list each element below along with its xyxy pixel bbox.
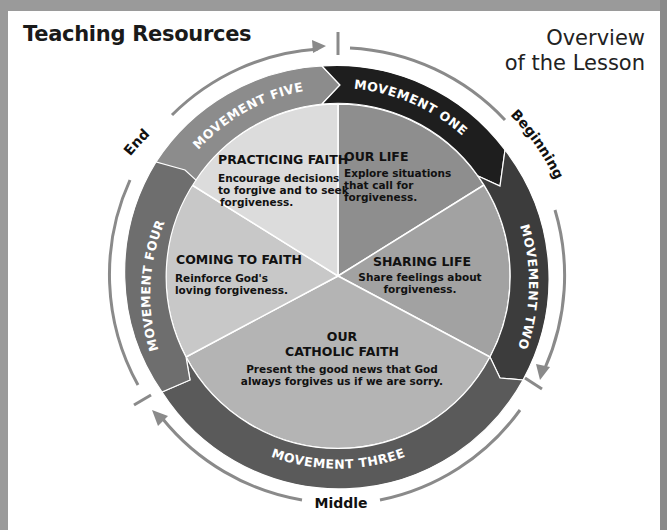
practicing-faith-line-1: Encourage decisions (218, 172, 339, 184)
tick-left (134, 395, 151, 405)
sharing-life-line-2: forgiveness. (383, 283, 456, 295)
our-life-title: OUR LIFE (344, 149, 408, 164)
practicing-faith-line-3: forgiveness. (220, 196, 293, 208)
our-catholic-faith-title-2: CATHOLIC FAITH (285, 344, 399, 359)
coming-to-faith-title: COMING TO FAITH (176, 252, 302, 267)
our-catholic-faith-line-1: Present the good news that God (246, 363, 438, 375)
phase-end-label: End (120, 125, 152, 158)
practicing-faith-title: PRACTICING FAITH (218, 152, 348, 167)
our-life-line-2: that call for (344, 179, 414, 191)
lesson-cycle-diagram: MOVEMENT ONE MOVEMENT TWO MOVEMENT THREE… (0, 0, 667, 530)
our-catholic-faith-title-1: OUR (327, 329, 358, 344)
coming-to-faith-line-2: loving forgiveness. (175, 284, 288, 296)
sharing-life-line-1: Share feelings about (358, 271, 481, 283)
phase-middle-label: Middle (314, 495, 367, 511)
arrow-head-top (312, 40, 326, 53)
tick-right (525, 378, 542, 389)
our-life-line-1: Explore situations (344, 167, 451, 179)
sharing-life-title: SHARING LIFE (373, 254, 471, 269)
arrow-head-right (536, 364, 550, 380)
our-life-line-3: forgiveness. (344, 191, 417, 203)
practicing-faith-line-2: to forgive and to seek (218, 184, 350, 196)
our-catholic-faith-line-2: always forgives us if we are sorry. (241, 375, 443, 387)
coming-to-faith-line-1: Reinforce God's (175, 272, 268, 284)
